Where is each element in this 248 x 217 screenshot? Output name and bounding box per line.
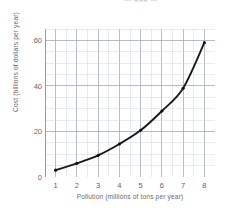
- x-axis-tick-label: 3: [92, 181, 104, 190]
- x-axis-tick-labels: 12345678: [45, 179, 215, 190]
- x-axis-tick-label: 4: [113, 181, 125, 190]
- data-point-marker: [160, 109, 163, 112]
- x-axis-tick-label: 1: [50, 181, 62, 190]
- data-point-marker: [118, 142, 121, 145]
- series-line: [56, 43, 205, 171]
- chart-figure: — ■■■ — 0204060 12345678 Pollution (mill…: [0, 0, 248, 217]
- data-point-marker: [203, 41, 206, 44]
- x-axis-tick-label: 8: [198, 181, 210, 190]
- x-axis-tick-label: 5: [135, 181, 147, 190]
- x-axis-tick-label: 6: [156, 181, 168, 190]
- x-axis-tick-label: 7: [177, 181, 189, 190]
- y-axis-title: Cost (billions of dollars per year): [12, 0, 19, 136]
- plot-area: [45, 29, 215, 177]
- scan-header-fragment: — ■■■ —: [86, 0, 196, 5]
- data-point-marker: [139, 129, 142, 132]
- y-axis-tick-labels: 0204060: [24, 29, 42, 177]
- x-axis-title: Pollution (millions of tons per year): [45, 193, 215, 200]
- data-point-marker: [182, 87, 185, 90]
- x-axis-tick-label: 2: [71, 181, 83, 190]
- y-axis-tick-label: 40: [26, 81, 42, 90]
- data-point-marker: [75, 162, 78, 165]
- y-axis-title-wrapper: Cost (billions of dollars per year): [12, 0, 24, 136]
- chart-series-curve: [45, 29, 215, 177]
- y-axis-tick-label: 20: [26, 127, 42, 136]
- y-axis-tick-label: 60: [26, 36, 42, 45]
- data-point-marker: [54, 169, 57, 172]
- data-point-marker: [97, 154, 100, 157]
- y-axis-tick-label: 0: [26, 173, 42, 182]
